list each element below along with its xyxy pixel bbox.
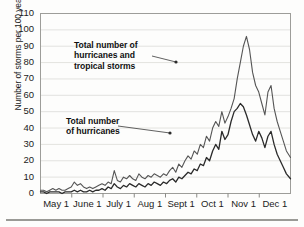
- y-tick-label: 40: [10, 122, 34, 133]
- y-tick-label: 100: [10, 23, 34, 34]
- y-tick-label: 30: [10, 138, 34, 149]
- hurricane-season-chart: Number of storms per 100 years 010203040…: [0, 0, 304, 227]
- y-tick-label: 70: [10, 72, 34, 83]
- y-tick-label: 20: [10, 154, 34, 165]
- x-tick-label: Dec 1: [251, 198, 299, 209]
- y-tick-label: 60: [10, 89, 34, 100]
- y-tick-label: 50: [10, 105, 34, 116]
- x-tick-marks: [72, 194, 260, 198]
- plot-area: [0, 0, 304, 227]
- y-tick-label: 90: [10, 40, 34, 51]
- annotation-hurricanes: Total number of hurricanes: [66, 116, 120, 137]
- y-tick-label: 80: [10, 56, 34, 67]
- bottom-rule: [6, 219, 298, 221]
- y-tick-label: 10: [10, 171, 34, 182]
- annotation-tropical-storms: Total number of hurricanes and tropical …: [74, 40, 138, 71]
- y-tick-label: 110: [10, 7, 34, 18]
- y-tick-label: 0: [10, 187, 34, 198]
